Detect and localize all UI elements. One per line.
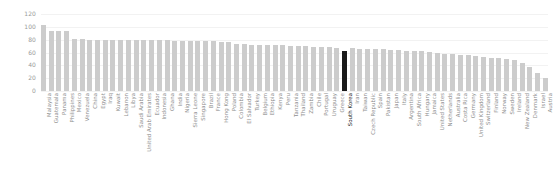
x-axis-tick: Israel [535,93,540,180]
x-axis-tick: Sierra Leone [188,93,193,180]
y-axis-tick-label: 100 [0,24,36,30]
x-axis-tick: Japan [388,93,393,180]
x-axis-tick: Italy [396,93,401,180]
bar [265,45,270,91]
bar [257,45,262,91]
x-axis-tick: Costa Rica [458,93,463,180]
x-axis-tick: United Arab Emirates [141,93,146,180]
x-axis-tick: Chile [311,93,316,180]
bar [535,73,540,91]
x-axis-tick: France [211,93,216,180]
y-axis-tick-label: 120 [0,11,36,17]
bar [157,40,162,91]
bar [419,51,424,91]
x-axis-tick: Singapore [195,93,200,180]
x-axis-tick: Netherlands [442,93,447,180]
bar [357,49,362,91]
bar [342,51,347,91]
bar [203,41,208,91]
x-axis-tick: United States [435,93,440,180]
bar [64,31,69,91]
bar [350,48,355,91]
x-axis-tick: Lebanon [118,93,123,180]
x-axis-tick: Saudi Arabia [134,93,139,180]
bar [311,47,316,91]
bar [141,40,146,91]
bar [288,46,293,91]
x-axis-tick: Germany [466,93,471,180]
bar [149,40,154,91]
bar [404,51,409,91]
y-axis-tick-label: 80 [0,37,36,43]
bar [95,40,100,91]
bar [280,45,285,91]
x-axis-tick: El Salvador [242,93,247,180]
x-axis-tick: Kenya [273,93,278,180]
bar [496,58,501,91]
bar [103,40,108,91]
x-axis-tick: Jamaica [427,93,432,180]
bar [126,40,131,91]
x-axis-tick: Iran [350,93,355,180]
bar [512,60,517,91]
bar [87,40,92,91]
x-axis-tick: Portugal [319,93,324,180]
x-axis-tick: Ethiopia [265,93,270,180]
x-axis-tick: Iraq [103,93,108,180]
bar [543,78,548,91]
x-axis-tick: South Korea [342,93,347,180]
x-axis-tick: Spain [373,93,378,180]
y-axis-tick-label: 60 [0,50,36,56]
y-axis-tick-label: 20 [0,75,36,81]
bar [334,48,339,91]
y-axis-tick-label: 0 [0,88,36,94]
bar [118,40,123,91]
bar [72,39,77,91]
bar [234,44,239,91]
x-axis-tick: Hong Kong [219,93,224,180]
plot-area [41,14,548,91]
bar [303,46,308,91]
x-axis-tick: Brazil [203,93,208,180]
x-axis-tick: United Kingdom [473,93,478,180]
bar [442,54,447,91]
x-axis-tick: Australia [450,93,455,180]
bar [466,55,471,91]
x-axis: MalaysiaGuatemalaPanamaPhilippinesMexico… [41,93,548,180]
x-axis-tick: Uruguay [327,93,332,180]
bar [165,40,170,91]
bar [41,25,46,91]
bar [504,59,509,91]
bar [242,44,247,91]
x-axis-tick: Austria [543,93,548,180]
x-axis-tick: Denmark [527,93,532,180]
bar [56,31,61,91]
x-axis-tick: Greece [334,93,339,180]
x-axis-tick: India [172,93,177,180]
x-axis-tick: Panama [56,93,61,180]
x-axis-tick: Czech Republic [365,93,370,180]
bar [373,49,378,91]
bar-chart-figure: 020406080100120 MalaysiaGuatemalaPanamaP… [0,0,558,180]
bar [481,57,486,91]
bar [180,41,185,91]
bar [80,39,85,91]
y-axis-tick-label: 40 [0,62,36,68]
x-axis-tick: Malaysia [41,93,46,180]
x-axis-tick: Argentina [404,93,409,180]
bar [249,45,254,91]
y-axis: 020406080100120 [0,14,36,91]
x-axis-tick: Poland [226,93,231,180]
x-axis-tick: Kuwait [110,93,115,180]
x-axis-tick: Ghana [165,93,170,180]
x-axis-tick-label: Austria [548,93,553,112]
bar [365,49,370,91]
x-axis-tick: Ireland [512,93,517,180]
bar [49,31,54,91]
x-axis-tick: Indonesia [157,93,162,180]
bar [134,40,139,91]
x-axis-tick: Egypt [95,93,100,180]
bar [319,47,324,91]
x-axis-tick: Ecuador [149,93,154,180]
bar-series [41,14,548,91]
